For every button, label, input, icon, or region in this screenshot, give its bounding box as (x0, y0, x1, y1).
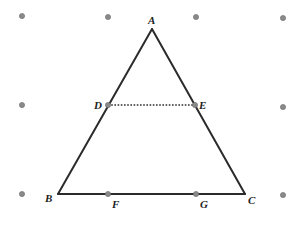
label-e: E (198, 99, 206, 111)
grid-dot (105, 14, 110, 19)
diagram-canvas: ABCDEFG (0, 0, 307, 225)
grid-dot (19, 191, 24, 196)
grid-dot (19, 102, 24, 107)
point-g (193, 191, 198, 196)
point-markers (105, 102, 198, 196)
grid-dots (19, 13, 285, 197)
point-labels: ABCDEFG (44, 14, 256, 210)
segment-ab (58, 29, 152, 194)
label-c: C (248, 194, 256, 206)
label-g: G (200, 198, 208, 210)
grid-dot (280, 104, 285, 109)
point-d (105, 102, 110, 107)
label-a: A (147, 14, 155, 26)
label-d: D (93, 99, 102, 111)
point-e (192, 102, 197, 107)
grid-dot (280, 15, 285, 20)
triangle-diagram: ABCDEFG (0, 0, 307, 225)
segment-ac (152, 29, 245, 194)
triangle-segments (58, 29, 245, 194)
point-f (105, 191, 110, 196)
grid-dot (193, 14, 198, 19)
label-f: F (111, 198, 120, 210)
grid-dot (19, 13, 24, 18)
grid-dot (280, 192, 285, 197)
label-b: B (44, 192, 52, 204)
